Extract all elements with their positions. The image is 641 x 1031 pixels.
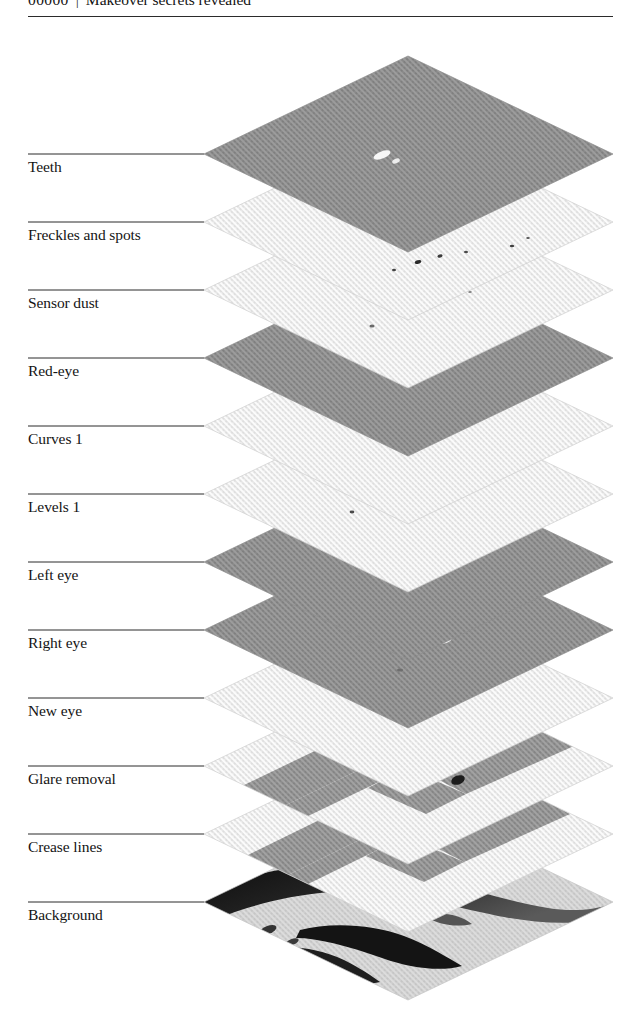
layer-label-text: Left eye (28, 566, 78, 583)
running-head: 00000|Makeover secrets revealed (28, 0, 613, 9)
layer-label-text: Background (28, 906, 103, 923)
layer-label-levels-1: Levels 1 (28, 492, 218, 518)
layer-label-right-eye: Right eye (28, 628, 218, 654)
layer-label-curves-1: Curves 1 (28, 424, 218, 450)
layer-label-text: Glare removal (28, 770, 116, 787)
layer-label-crease-lines: Crease lines (28, 832, 218, 858)
layer-label-text: Freckles and spots (28, 226, 141, 243)
layer-label-red-eye: Red-eye (28, 356, 218, 382)
layer-label-text: Sensor dust (28, 294, 99, 311)
layer-label-background: Background (28, 900, 218, 926)
layer-label-text: New eye (28, 702, 82, 719)
exploded-layer-figure: Teeth Freckles and spots Sensor dust Red… (0, 24, 641, 1031)
header-rule (28, 16, 613, 17)
layer-label-text: Levels 1 (28, 498, 80, 515)
layer-label-text: Crease lines (28, 838, 102, 855)
layer-label-left-eye: Left eye (28, 560, 218, 586)
layer-label-glare-removal: Glare removal (28, 764, 218, 790)
running-head-separator: | (69, 0, 86, 8)
layer-label-text: Right eye (28, 634, 87, 651)
layer-label-text: Curves 1 (28, 430, 83, 447)
layer-label-new-eye: New eye (28, 696, 218, 722)
running-head-title: Makeover secrets revealed (86, 0, 251, 8)
layer-label-teeth: Teeth (28, 152, 218, 178)
layer-label-sensor-dust: Sensor dust (28, 288, 218, 314)
page-folio: 00000 (28, 0, 69, 8)
layer-label-text: Teeth (28, 158, 62, 175)
layer-label-text: Red-eye (28, 362, 79, 379)
layer-label-freckles-and-spots: Freckles and spots (28, 220, 218, 246)
